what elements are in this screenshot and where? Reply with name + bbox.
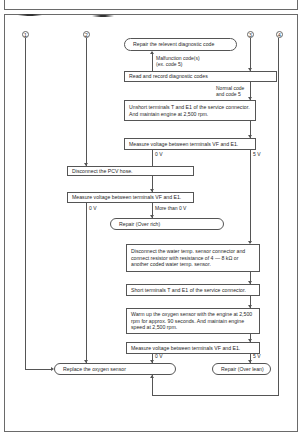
connector-line xyxy=(152,375,153,395)
measure-2-0v-label: 0 V xyxy=(89,205,97,211)
arrow-up-icon xyxy=(150,375,154,378)
step-read-record-codes: Read and record diagnostic codes xyxy=(124,71,277,82)
connector-line xyxy=(250,150,251,243)
arrow-up-icon xyxy=(150,51,154,54)
connector-4: 4 xyxy=(276,31,283,38)
step-repair-over-rich: Repair (Over rich) xyxy=(110,218,224,230)
flow-line-4 xyxy=(278,38,279,395)
step-measure-voltage-3: Measure voltage between terminals VF and… xyxy=(126,342,260,354)
measure-1-0v-label: 0 V xyxy=(155,151,163,157)
connector-2: 2 xyxy=(83,31,90,38)
flow-line-2 xyxy=(86,38,87,166)
connector-line xyxy=(152,52,153,72)
flow-line-3 xyxy=(250,38,251,71)
malfunction-example-label: (ex. code 5) xyxy=(156,61,182,67)
connector-3: 3 xyxy=(247,31,254,38)
step-disconnect-water-temp: Disconnect the water temp. sensor connec… xyxy=(126,244,260,272)
connector-line xyxy=(152,150,153,166)
connector-line xyxy=(152,395,279,396)
scan-artifact xyxy=(18,14,42,16)
connector-1: 1 xyxy=(22,31,29,38)
normal-code-label-2: and code 5 xyxy=(216,91,241,97)
step-measure-voltage-2: Measure voltage between terminals VF and… xyxy=(67,192,194,203)
flow-line-1-to-replace xyxy=(25,369,52,370)
step-short-terminals: Short terminals T and E1 of the service … xyxy=(126,284,260,296)
step-disconnect-pcv: Disconnect the PCV hose. xyxy=(67,166,194,176)
step-unshort-terminals: Unshort terminals T and E1 of the servic… xyxy=(124,100,256,121)
step-replace-oxygen-sensor: Replace the oxygen sensor xyxy=(54,363,176,375)
connector-line xyxy=(86,203,87,363)
measure-1-5v-label: 5 V xyxy=(253,151,261,157)
step-warm-up-sensor: Warm up the oxygen sensor with the engin… xyxy=(126,308,260,334)
measure-3-5v-label: 5 V xyxy=(253,353,261,359)
measure-3-0v-label: 0 V xyxy=(155,353,163,359)
top-page-strip xyxy=(4,0,298,10)
step-measure-voltage-1: Measure voltage between terminals VF and… xyxy=(124,138,256,150)
measure-2-more-label: More than 0 V xyxy=(155,205,186,211)
flow-line-1 xyxy=(25,38,26,369)
scan-artifact xyxy=(92,15,114,17)
step-repair-over-lean: Repair (Over lean) xyxy=(212,363,271,375)
step-repair-diagnostic-code: Repair the relevent diagnostic code xyxy=(124,38,237,51)
